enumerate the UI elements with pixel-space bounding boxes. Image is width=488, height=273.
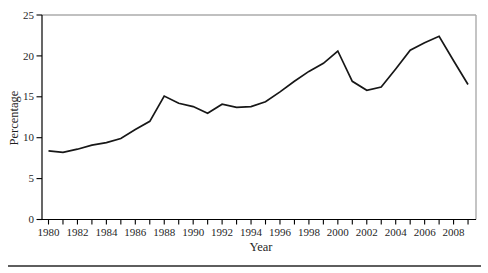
y-tick-label: 0 [29,213,35,225]
x-tick-label: 2008 [443,226,466,238]
x-tick-label: 1992 [211,226,233,238]
y-tick-label: 5 [29,172,35,184]
y-axis-title: Percentage [7,91,22,146]
percentage-series-line [49,36,469,152]
x-tick-label: 1988 [153,226,176,238]
y-tick-label: 10 [23,131,35,143]
figure-bottom-rule [8,265,481,267]
y-tick-label: 20 [23,50,35,62]
x-tick-label: 1980 [38,226,61,238]
x-tick-label: 1994 [240,226,263,238]
y-tick-label: 25 [23,9,35,21]
x-tick-label: 1996 [269,226,292,238]
x-tick-label: 1982 [66,226,88,238]
line-chart: 0510152025198019821984198619881990199219… [0,0,488,256]
x-tick-label: 2006 [414,226,437,238]
x-tick-label: 1998 [298,226,321,238]
figure: 0510152025198019821984198619881990199219… [0,0,488,273]
x-tick-label: 2000 [327,226,350,238]
y-tick-label: 15 [23,90,35,102]
x-tick-label: 2002 [356,226,378,238]
x-tick-label: 1986 [124,226,147,238]
x-tick-label: 1990 [182,226,205,238]
x-tick-label: 1984 [95,226,118,238]
x-axis-title: Year [249,240,272,255]
x-tick-label: 2004 [385,226,408,238]
